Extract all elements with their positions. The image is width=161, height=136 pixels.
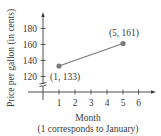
x-tick-label-2: 2 [73,98,78,108]
data-line [59,44,123,67]
y-tick-label-160: 160 [23,40,38,50]
y-tick-label-180: 180 [23,24,38,34]
x-tick-label-3: 3 [89,98,94,108]
data-point-2 [120,41,125,46]
y-axis-title: Price per gallon (in cents) [6,9,17,107]
x-axis: 1 2 3 4 5 6 [28,90,156,109]
x-axis-arrow-icon [151,90,156,93]
x-tick-label-1: 1 [57,98,62,108]
x-axis-subtitle: (1 corresponds to January) [37,124,138,135]
x-tick-label-6: 6 [136,98,141,108]
data-point-1-label: (1, 133) [50,72,80,83]
series-price: (1, 133) (5, 161) [50,28,139,83]
x-tick-label-5: 5 [121,98,126,108]
data-point-2-label: (5, 161) [109,28,139,39]
x-axis-title: Month [75,113,101,123]
axis-break-icon [40,83,47,87]
y-tick-label-120: 120 [23,72,38,82]
y-axis: 180 160 140 120 [23,12,47,100]
y-tick-label-140: 140 [23,56,38,66]
line-chart: 180 160 140 120 Price per gallon (in cen… [0,0,161,136]
x-tick-label-4: 4 [105,98,110,108]
y-axis-arrow-icon [41,12,44,17]
data-point-1 [56,63,61,68]
